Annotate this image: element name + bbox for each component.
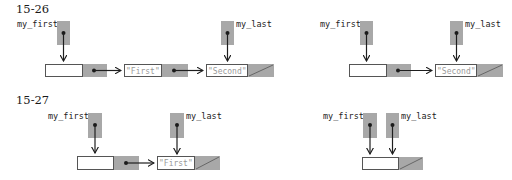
linked-list-diagram: 15-26 my_first my_last "First" bbox=[0, 0, 512, 180]
node-data-box bbox=[78, 157, 114, 170]
my-first-label: my_first bbox=[17, 19, 58, 29]
figure-label: 15-26 bbox=[16, 2, 49, 16]
my-last-label: my_last bbox=[465, 19, 501, 29]
figure-15-27: 15-27 my_first my_last "First" bbox=[16, 93, 437, 170]
node-value: "Second" bbox=[208, 67, 247, 76]
node-value: "Second" bbox=[437, 67, 476, 76]
my-first-label: my_first bbox=[323, 111, 364, 121]
list-node: "Second" bbox=[207, 64, 275, 77]
panel-15-27-right: my_first my_last bbox=[323, 111, 437, 170]
my-first-label: my_first bbox=[320, 19, 361, 29]
my-last-label: my_last bbox=[401, 111, 437, 121]
list-node bbox=[46, 64, 122, 77]
list-node bbox=[350, 64, 433, 77]
node-data-box bbox=[363, 158, 399, 170]
list-node: "First" bbox=[125, 64, 204, 77]
node-value: "First" bbox=[126, 67, 160, 76]
panel-15-27-left: my_first my_last "First" bbox=[48, 111, 222, 170]
my-first-label: my_first bbox=[48, 111, 89, 121]
node-data-box bbox=[350, 65, 387, 77]
panel-15-26-left: my_first my_last "First" bbox=[17, 19, 274, 77]
figure-label: 15-27 bbox=[16, 93, 49, 107]
figure-15-26: 15-26 my_first my_last "First" bbox=[16, 2, 503, 77]
list-node: "Second" bbox=[436, 64, 504, 77]
node-data-box bbox=[46, 65, 83, 77]
my-last-label: my_last bbox=[236, 19, 272, 29]
list-node bbox=[78, 156, 155, 170]
my-last-label: my_last bbox=[186, 111, 222, 121]
list-node bbox=[363, 157, 424, 170]
list-node: "First" bbox=[158, 156, 221, 170]
node-value: "First" bbox=[159, 159, 193, 168]
panel-15-26-right: my_first my_last "Second" bbox=[320, 19, 503, 77]
